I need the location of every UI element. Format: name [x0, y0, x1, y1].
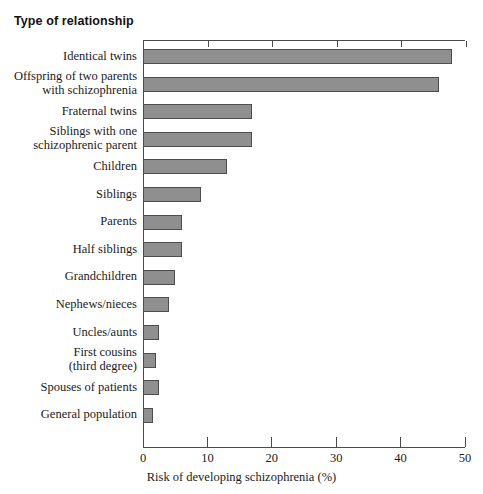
x-tick-label: 20: [252, 451, 292, 466]
bar: [143, 380, 159, 395]
bar-row: [143, 380, 159, 395]
x-tick-label: 0: [123, 451, 163, 466]
bar-row: [143, 159, 227, 174]
bar: [143, 325, 159, 340]
bar-row: [143, 215, 182, 230]
bar: [143, 159, 227, 174]
bar: [143, 187, 201, 202]
bar: [143, 104, 252, 119]
bar: [143, 215, 182, 230]
x-tick: [465, 437, 466, 447]
category-label: Siblings with one schizophrenic parent: [2, 124, 137, 152]
category-label: Spouses of patients: [2, 380, 137, 394]
category-label: Fraternal twins: [2, 104, 137, 118]
category-label: First cousins (third degree): [2, 345, 137, 373]
x-tick-label: 10: [187, 451, 227, 466]
category-label: Children: [2, 159, 137, 173]
plot-frame: [143, 40, 465, 432]
top-tick: [466, 41, 467, 47]
x-tick-label: 30: [316, 451, 356, 466]
top-tick: [337, 41, 338, 47]
top-tick: [401, 41, 402, 47]
x-axis-line: [143, 447, 465, 448]
category-label: General population: [2, 407, 137, 421]
x-tick: [271, 437, 272, 447]
x-tick: [336, 437, 337, 447]
bar: [143, 353, 156, 368]
bar-row: [143, 242, 182, 257]
chart-title: Type of relationship: [14, 14, 134, 28]
category-label: Siblings: [2, 187, 137, 201]
top-tick: [208, 41, 209, 47]
category-label: Grandchildren: [2, 269, 137, 283]
bar: [143, 270, 175, 285]
top-tick: [272, 41, 273, 47]
x-tick-label: 50: [445, 451, 483, 466]
category-label: Offspring of two parents with schizophre…: [2, 69, 137, 97]
x-tick-label: 40: [381, 451, 421, 466]
bar: [143, 49, 452, 64]
x-tick: [143, 437, 144, 447]
category-label: Half siblings: [2, 242, 137, 256]
category-label: Parents: [2, 214, 137, 228]
bar-chart: Type of relationship Identical twinsOffs…: [0, 0, 483, 494]
bar-row: [143, 325, 159, 340]
bar-row: [143, 49, 452, 64]
bar-row: [143, 132, 252, 147]
bar: [143, 408, 153, 423]
bar-row: [143, 353, 156, 368]
bar-row: [143, 77, 439, 92]
category-label: Nephews/nieces: [2, 297, 137, 311]
bar-row: [143, 297, 169, 312]
category-label: Identical twins: [2, 49, 137, 63]
bar: [143, 132, 252, 147]
category-label: Uncles/aunts: [2, 325, 137, 339]
bar-row: [143, 104, 252, 119]
bar: [143, 242, 182, 257]
x-axis-title: Risk of developing schizophrenia (%): [0, 470, 483, 485]
bar-row: [143, 408, 153, 423]
bar: [143, 77, 439, 92]
x-tick: [400, 437, 401, 447]
bar-row: [143, 187, 201, 202]
x-tick: [207, 437, 208, 447]
bar-row: [143, 270, 175, 285]
bar: [143, 297, 169, 312]
